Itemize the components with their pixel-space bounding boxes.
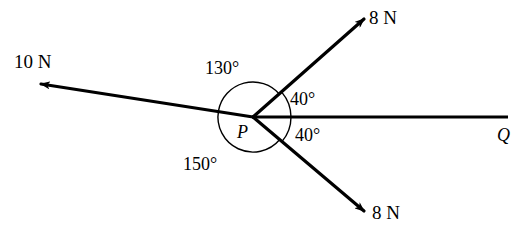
angle-arc-130 <box>219 82 280 111</box>
label-force-10n-left: 10 N <box>14 52 51 71</box>
label-angle-lower-40: 40° <box>295 126 320 144</box>
label-angle-upper-40: 40° <box>290 90 315 108</box>
label-force-8n-up-right: 8 N <box>369 8 397 27</box>
label-angle-130: 130° <box>205 59 239 77</box>
label-force-8n-down-right: 8 N <box>372 203 400 222</box>
label-angle-150: 150° <box>183 155 217 173</box>
force-diagram-svg <box>0 0 528 243</box>
label-point-q: Q <box>497 126 510 144</box>
angle-arc-lower-40 <box>282 117 291 141</box>
diagram-canvas: 8 N 10 N 8 N 130° 150° 40° 40° P Q <box>0 0 528 243</box>
vector-10n-left <box>41 84 253 117</box>
label-vertex-p: P <box>237 123 248 141</box>
